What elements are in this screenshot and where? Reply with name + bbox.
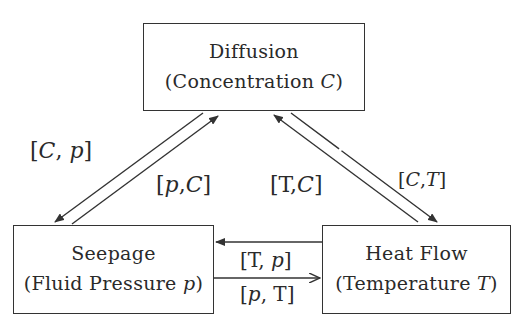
node-heat-flow: Heat Flow (Temperature T) [322, 225, 511, 314]
edge-label-t-p: [T, p] [240, 247, 292, 273]
edge-label-c-t: [C,T] [398, 168, 446, 190]
arrow-seepage-to-diffusion [72, 116, 218, 224]
node-diffusion: Diffusion (Concentration C) [143, 23, 365, 111]
edge-label-p-t: [p, T] [240, 281, 295, 307]
arrow-heat-to-diffusion [274, 115, 418, 222]
node-subtitle: (Concentration C) [144, 66, 364, 96]
edge-label-c-p: [C, p] [30, 138, 92, 163]
edge-label-t-c: [T,C] [270, 172, 322, 197]
node-title: Heat Flow [323, 238, 510, 268]
node-seepage: Seepage (Fluid Pressure p) [13, 225, 214, 314]
edge-label-p-c: [p,C] [156, 172, 211, 197]
node-subtitle: (Temperature T) [323, 268, 510, 298]
node-title: Seepage [14, 238, 213, 268]
arrow-diffusion-to-seepage [55, 113, 203, 222]
node-title: Diffusion [144, 36, 364, 66]
node-subtitle: (Fluid Pressure p) [14, 268, 213, 298]
